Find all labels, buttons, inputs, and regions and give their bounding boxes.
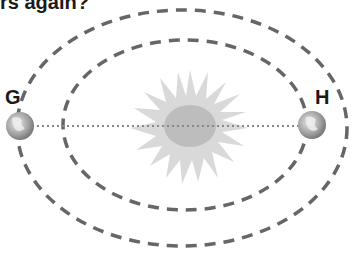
- orbit-diagram: [0, 0, 354, 259]
- planet-h-icon: [298, 111, 326, 139]
- planet-g-label: G: [5, 86, 21, 109]
- planet-g-icon: [6, 112, 34, 140]
- planet-h-label: H: [315, 86, 329, 109]
